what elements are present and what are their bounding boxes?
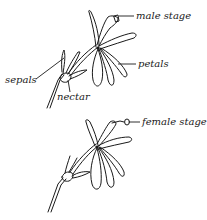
sepals-leader-line <box>36 58 64 79</box>
flower-illustration <box>0 0 207 220</box>
sepals-label: sepals <box>5 75 37 85</box>
nectar-label: nectar <box>57 92 90 102</box>
petals-label: petals <box>138 59 169 69</box>
flower-stages-diagram: male stage sepals nectar petals female s… <box>0 0 207 220</box>
female-stage-label: female stage <box>142 117 207 127</box>
male-stage-label: male stage <box>136 11 191 21</box>
female-stage-flower <box>48 119 132 212</box>
